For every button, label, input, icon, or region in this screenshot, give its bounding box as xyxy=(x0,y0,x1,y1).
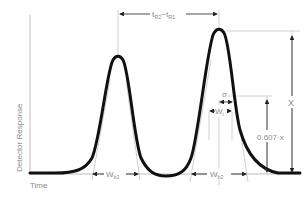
chromatogram-diagram: tR2−tR1 X 0.607·x σ Wi Wb1 Wb2 Detector … xyxy=(0,0,308,200)
svg-text:Wi: Wi xyxy=(215,107,224,117)
base-width-1-annotation: Wb1 xyxy=(93,168,138,180)
x-axis-label: Time xyxy=(30,181,48,190)
axes xyxy=(30,15,300,174)
svg-text:X: X xyxy=(288,98,294,108)
width-at-inflection-annotation: Wi xyxy=(210,105,231,117)
chromatogram-curve xyxy=(30,29,300,176)
y-axis-label: Detector Response xyxy=(15,103,24,172)
inflection-height-annotation: 0.607·x xyxy=(256,100,290,172)
base-width-2-annotation: Wb2 xyxy=(192,168,246,180)
svg-text:σ: σ xyxy=(222,90,227,99)
svg-text:0.607·x: 0.607·x xyxy=(257,133,284,142)
retention-difference-annotation: tR2−tR1 xyxy=(120,8,217,20)
peak-height-annotation: X xyxy=(286,36,298,172)
guide-lines xyxy=(92,10,300,185)
